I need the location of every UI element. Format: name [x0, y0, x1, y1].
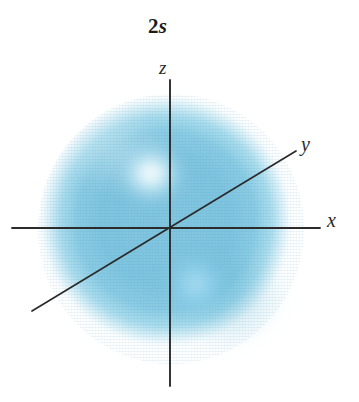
title-orbital-letter: s: [159, 14, 167, 38]
axis-label-z: z: [159, 58, 166, 77]
axis-label-y: y: [301, 134, 310, 154]
axis-line-y: [32, 151, 296, 311]
title-principal-number: 2: [148, 14, 159, 38]
coordinate-axes: [0, 0, 359, 402]
orbital-figure: 2s z x y: [0, 0, 359, 402]
page-title: 2s: [148, 16, 167, 37]
axis-label-x: x: [327, 210, 336, 230]
